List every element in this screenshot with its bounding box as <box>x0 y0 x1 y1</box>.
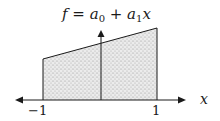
x-axis-right-arrow-icon <box>178 97 186 104</box>
x-axis-label: x <box>200 91 208 107</box>
linear-function-diagram: f = a0 + a1x −1 1 x <box>0 0 220 121</box>
shaded-area <box>43 28 157 100</box>
tick-label-one: 1 <box>152 103 160 118</box>
x-axis-left-arrow-icon <box>15 97 23 104</box>
tick-label-minus-one: −1 <box>28 103 47 118</box>
formula-title: f = a0 + a1x <box>61 5 151 24</box>
y-axis-arrow-icon <box>98 30 105 37</box>
